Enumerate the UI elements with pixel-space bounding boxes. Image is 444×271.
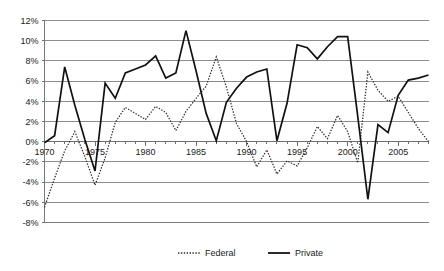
y-axis-tick-label: -4% <box>22 177 38 187</box>
y-axis-tick-label: 8% <box>25 56 38 66</box>
legend-label-federal: Federal <box>205 248 236 258</box>
y-axis-tick-label: -8% <box>22 218 38 228</box>
y-axis-tick-label: -6% <box>22 198 38 208</box>
y-axis-tick-label: 0% <box>25 137 38 147</box>
x-axis-tick-label: 2000 <box>338 147 358 157</box>
line-chart: 12%10%8%6%4%2%0%-2%-4%-6%-8% 19701975198… <box>0 0 444 271</box>
y-axis-tick-label: 4% <box>25 97 38 107</box>
legend-label-private: Private <box>295 248 323 258</box>
y-axis-tick-label: -2% <box>22 157 38 167</box>
x-axis-tick-label: 1985 <box>186 147 206 157</box>
x-axis-tick-label: 2005 <box>388 147 408 157</box>
x-axis-tick-label: 1995 <box>287 147 307 157</box>
y-axis-tick-label: 12% <box>20 16 38 26</box>
y-axis-tick-label: 6% <box>25 76 38 86</box>
y-axis-tick-label: 2% <box>25 117 38 127</box>
x-axis-tick-label: 1990 <box>237 147 257 157</box>
chart-container: 12%10%8%6%4%2%0%-2%-4%-6%-8% 19701975198… <box>0 0 444 271</box>
y-axis-tick-label: 10% <box>20 36 38 46</box>
x-axis-tick-label: 1980 <box>136 147 156 157</box>
